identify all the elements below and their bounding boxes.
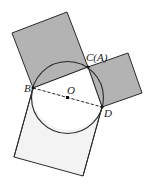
point-C <box>86 65 89 68</box>
label-C: C(A) <box>86 51 108 64</box>
point-O <box>66 96 69 99</box>
label-B: B <box>24 82 31 94</box>
geometry-diagram: B C(A) D O <box>0 0 150 192</box>
point-B <box>31 86 34 89</box>
label-D: D <box>103 107 112 119</box>
label-O: O <box>67 84 75 96</box>
